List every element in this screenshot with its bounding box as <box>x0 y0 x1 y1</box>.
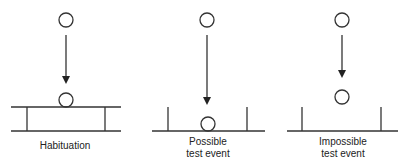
panel-label-habituation: Habituation <box>40 140 91 151</box>
panel-impossible: Impossible test event <box>287 13 398 159</box>
drop-arrow-head <box>62 76 70 84</box>
falling-ball-start <box>335 13 349 27</box>
drop-arrow-head <box>338 70 346 78</box>
panel-label-possible-line2: test event <box>186 148 230 159</box>
falling-ball-start <box>200 13 214 27</box>
ball-on-floor <box>201 117 215 131</box>
ball-suspended-midair <box>335 90 349 104</box>
panel-label-impossible-line2: test event <box>321 148 365 159</box>
panel-label-possible-line1: Possible <box>189 136 227 147</box>
ball-resting-on-surface <box>59 93 73 107</box>
panel-possible: Possible test event <box>152 13 265 159</box>
habituation-test-diagram: Habituation Possible test event Impossib… <box>0 0 404 167</box>
panel-label-impossible-line1: Impossible <box>319 136 367 147</box>
panel-habituation: Habituation <box>11 13 121 151</box>
drop-arrow-head <box>203 97 211 105</box>
falling-ball-start <box>59 13 73 27</box>
